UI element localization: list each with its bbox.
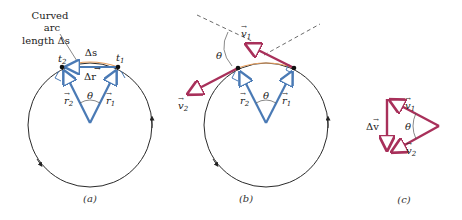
panel-caption-c: (c) [397, 194, 411, 205]
angle-arc [413, 113, 416, 139]
annotation-label-line3: length Δs [22, 35, 70, 46]
vector-arrow-glyph: → [94, 64, 101, 73]
panel-c: v1 → v2 → Δv → θ (c) [366, 95, 439, 205]
right-angle-mark [232, 72, 238, 81]
arc-label: Δs [85, 47, 97, 58]
vector-arrow-glyph: → [241, 23, 247, 31]
vector-arrow-glyph: → [178, 95, 184, 103]
point-t1 [116, 65, 121, 70]
vector-r1 [266, 72, 292, 123]
vector-v2 [392, 126, 439, 152]
vector-arrow-glyph: → [406, 140, 412, 148]
point-t1 [292, 66, 297, 71]
angle-label: θ [263, 90, 269, 101]
panel-caption-b: (b) [239, 193, 253, 204]
panel-caption-a: (a) [83, 193, 97, 204]
vector-v1 [390, 100, 439, 126]
vector-arrow-glyph: → [240, 90, 246, 98]
panel-b: v1 → v2 → θ r2 → r1 → θ (b) [178, 15, 328, 204]
angle-label: θ [87, 90, 93, 101]
vector-arrow-glyph: → [373, 116, 379, 124]
vector-v2 [188, 68, 238, 94]
vector-arrow-glyph: → [405, 95, 411, 103]
angle-arc-outer [224, 32, 232, 66]
angle-label: θ [405, 121, 411, 132]
label-t1: t1 [116, 52, 125, 65]
panel-a: Curved arc length Δs Δs Δr → t2 t1 r2 → … [22, 10, 152, 204]
vector-arrow-glyph: → [282, 90, 288, 98]
angle-label-outer: θ [216, 50, 222, 61]
vector-arrow-glyph: → [106, 90, 112, 98]
circular-path [204, 63, 328, 187]
vector-arrow-glyph: → [64, 90, 70, 98]
annotation-label-line2: arc [44, 22, 61, 33]
annotation-label-line1: Curved [32, 10, 69, 21]
uniform-circular-motion-diagram: Curved arc length Δs Δs Δr → t2 t1 r2 → … [0, 0, 462, 220]
right-angle-mark [55, 71, 61, 81]
dashed-tangent-line [264, 24, 320, 55]
point-t2 [236, 66, 241, 71]
label-t2: t2 [58, 53, 67, 66]
